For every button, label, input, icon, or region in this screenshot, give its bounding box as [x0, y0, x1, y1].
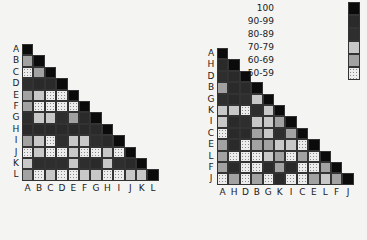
matrix-cell [274, 105, 285, 116]
matrix-cell [228, 116, 239, 127]
legend-label: 70-79 [224, 41, 274, 54]
column-label: A [22, 183, 33, 193]
matrix-cell [102, 158, 113, 169]
matrix-cell [251, 151, 262, 162]
matrix-cell [136, 158, 147, 169]
matrix-cell [113, 135, 124, 146]
legend-label: 60-69 [224, 54, 274, 67]
column-label: H [102, 183, 113, 193]
row-label: J [206, 173, 216, 184]
matrix-cell [56, 112, 67, 123]
matrix-cell [297, 162, 308, 173]
matrix-cell [68, 124, 79, 135]
row-label: A [206, 48, 216, 59]
column-label: J [125, 183, 136, 193]
matrix-cell [68, 147, 79, 158]
row-label: L [206, 151, 216, 162]
matrix-cell [228, 94, 239, 105]
matrix-cell [285, 116, 296, 127]
matrix-cell [308, 162, 319, 173]
row-label: C [206, 128, 216, 139]
matrix-cell [90, 124, 101, 135]
legend-swatch [348, 67, 360, 80]
matrix-cell [263, 162, 274, 173]
matrix-cell [22, 158, 33, 169]
row-label: G [206, 94, 216, 105]
matrix-cell [45, 158, 56, 169]
matrix-cell [228, 139, 239, 150]
row-label: E [206, 139, 216, 150]
matrix-cell [56, 90, 67, 101]
matrix-cell [102, 124, 113, 135]
matrix-cell [217, 128, 228, 139]
matrix-cell [308, 173, 319, 184]
row-label: E [11, 90, 21, 101]
matrix-cell [228, 162, 239, 173]
column-label: E [308, 187, 319, 197]
matrix-cell [263, 116, 274, 127]
row-label: H [11, 124, 21, 135]
matrix-cell [33, 101, 44, 112]
matrix-cell [45, 147, 56, 158]
matrix-cell [79, 147, 90, 158]
row-label: C [11, 67, 21, 78]
column-label: F [79, 183, 90, 193]
matrix-cell [331, 173, 342, 184]
column-label: K [274, 187, 285, 197]
matrix-cell [45, 169, 56, 180]
matrix-cell [56, 124, 67, 135]
matrix-cell [263, 151, 274, 162]
matrix-cell [68, 158, 79, 169]
matrix-cell [33, 55, 44, 66]
matrix-cell [217, 139, 228, 150]
legend-swatch [348, 54, 360, 67]
matrix-cell [263, 105, 274, 116]
matrix-cell [251, 82, 262, 93]
column-label: K [136, 183, 147, 193]
row-label: F [206, 162, 216, 173]
matrix-cell [147, 169, 158, 180]
matrix-cell [33, 112, 44, 123]
matrix-cell [33, 67, 44, 78]
matrix-cell [251, 116, 262, 127]
matrix-cell [113, 169, 124, 180]
matrix-cell [240, 139, 251, 150]
matrix-cell [240, 162, 251, 173]
matrix-cell [274, 162, 285, 173]
matrix-cell [125, 158, 136, 169]
matrix-cell [285, 162, 296, 173]
matrix-cell [79, 169, 90, 180]
matrix-cell [56, 147, 67, 158]
matrix-cell [263, 94, 274, 105]
row-label: B [206, 82, 216, 93]
matrix-cell [79, 135, 90, 146]
row-label: D [206, 71, 216, 82]
matrix-cell [79, 101, 90, 112]
matrix-cell [90, 135, 101, 146]
row-label: K [206, 105, 216, 116]
matrix-cell [90, 147, 101, 158]
row-label: H [206, 59, 216, 70]
matrix-cell [79, 158, 90, 169]
matrix-cell [240, 82, 251, 93]
matrix-cell [240, 151, 251, 162]
column-label: A [217, 187, 228, 197]
column-label: H [228, 187, 239, 197]
matrix-cell [217, 94, 228, 105]
row-label: J [11, 147, 21, 158]
matrix-cell [251, 162, 262, 173]
matrix-cell [297, 128, 308, 139]
matrix-cell [45, 101, 56, 112]
column-label: L [147, 183, 158, 193]
matrix-cell [79, 124, 90, 135]
matrix-cell [45, 90, 56, 101]
legend-swatch [348, 41, 360, 54]
column-label: I [113, 183, 124, 193]
matrix-cell [217, 173, 228, 184]
matrix-cell [68, 90, 79, 101]
matrix-cell [22, 55, 33, 66]
matrix-cell [56, 169, 67, 180]
matrix-cell [228, 82, 239, 93]
matrix-cell [125, 169, 136, 180]
legend-swatch [348, 28, 360, 41]
